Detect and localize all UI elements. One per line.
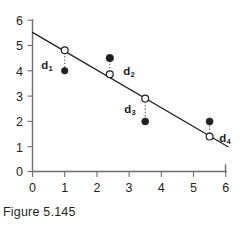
residual-label-d4: d4 — [219, 132, 231, 146]
y-tick-label-0: 0 — [16, 165, 23, 179]
observed-point-1 — [61, 68, 68, 75]
figure-container: 6 5 4 3 2 1 0 0 1 2 3 4 5 6 — [0, 0, 242, 227]
x-tick-label-3: 3 — [126, 181, 133, 195]
x-tick-label-5: 5 — [190, 181, 197, 195]
x-tick-label-2: 2 — [93, 181, 100, 195]
residual-label-d4-subscript: 4 — [226, 137, 231, 146]
y-tick-label-5: 5 — [16, 39, 23, 53]
y-tick-label-6: 6 — [16, 14, 23, 28]
residual-label-d1-text: d — [41, 59, 48, 71]
residual-label-d2-text: d — [123, 65, 130, 77]
residual-label-d2: d2 — [123, 65, 134, 79]
y-tick-label-1: 1 — [16, 141, 23, 155]
scatter-plot: 6 5 4 3 2 1 0 0 1 2 3 4 5 6 — [0, 0, 242, 227]
observed-point-3 — [142, 118, 149, 125]
residual-label-d2-subscript: 2 — [130, 70, 134, 79]
x-tick-label-0: 0 — [29, 181, 36, 195]
predicted-point-2 — [106, 71, 113, 78]
observed-point-4 — [206, 118, 213, 125]
observed-point-2 — [106, 54, 114, 62]
y-tick-label-2: 2 — [16, 115, 23, 129]
y-tick-label-3: 3 — [16, 90, 23, 104]
x-tick-label-1: 1 — [61, 181, 68, 195]
y-tick-label-4: 4 — [16, 65, 23, 79]
predicted-point-4 — [206, 133, 213, 140]
x-tick-label-6: 6 — [222, 181, 229, 195]
residual-label-d3-text: d — [124, 103, 131, 115]
residual-label-d4-text: d — [219, 132, 226, 144]
figure-caption: Figure 5.145 — [3, 205, 76, 219]
predicted-point-3 — [142, 95, 149, 102]
residual-label-d1: d1 — [41, 59, 53, 73]
x-tick-label-4: 4 — [158, 181, 165, 195]
predicted-point-1 — [61, 47, 68, 54]
residual-label-d3-subscript: 3 — [131, 108, 135, 117]
residual-label-d3: d3 — [124, 103, 135, 117]
residual-label-d1-subscript: 1 — [48, 64, 53, 73]
